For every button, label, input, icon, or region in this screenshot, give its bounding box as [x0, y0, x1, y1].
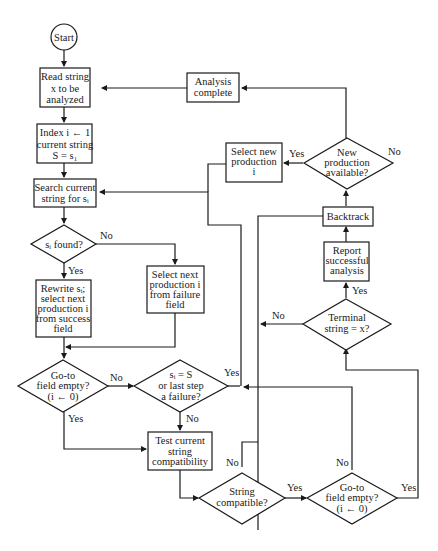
analysis-complete-node: Analysis complete [187, 73, 239, 102]
goto2-no-label: No [336, 457, 349, 468]
svg-text:field empty?: field empty? [326, 492, 379, 503]
svg-text:compatible?: compatible? [216, 497, 268, 508]
si-found-no-label: No [100, 230, 113, 241]
start-node: Start [51, 24, 77, 50]
newprod-yes-label: Yes [289, 148, 304, 159]
select-new-production-node: Select new production i [226, 143, 282, 182]
si-eq-yes-label: Yes [224, 367, 239, 378]
rewrite-node: Rewrite sᵢ; select next production i fro… [36, 280, 91, 337]
si-found-yes-label: Yes [68, 265, 83, 276]
compat-yes-label: Yes [287, 482, 302, 493]
svg-text:string = x?: string = x? [325, 323, 370, 334]
svg-text:i: i [253, 166, 256, 177]
test-compatibility-node: Test current string compatibility [148, 432, 212, 470]
report-success-node: Report successful analysis [324, 242, 369, 281]
svg-text:available?: available? [326, 167, 369, 178]
svg-text:String: String [229, 486, 255, 497]
svg-text:Terminal: Terminal [328, 312, 366, 323]
svg-text:complete: complete [194, 87, 233, 98]
compat-no-label: No [226, 457, 239, 468]
goto1-no-label: No [110, 372, 123, 383]
svg-text:field: field [165, 299, 185, 310]
svg-text:compatibility: compatibility [152, 456, 209, 467]
svg-text:field empty?: field empty? [37, 380, 90, 391]
svg-text:S = s₁: S = s₁ [53, 150, 78, 161]
terminal-yes-label: Yes [352, 285, 367, 296]
svg-text:Read string: Read string [41, 71, 90, 82]
svg-text:Start: Start [54, 32, 74, 43]
search-node: Search current string for sᵢ [34, 179, 96, 207]
svg-text:analyzed: analyzed [46, 94, 84, 105]
si-equals-s-decision: sᵢ = S or last step a failure? [134, 360, 228, 412]
svg-text:Search current: Search current [35, 182, 96, 193]
svg-text:Test current: Test current [155, 435, 205, 446]
svg-text:(i ← 0): (i ← 0) [48, 391, 79, 403]
svg-text:a failure?: a failure? [161, 391, 201, 402]
flowchart: Start Read string x to be analyzed Index… [0, 0, 438, 551]
svg-text:Analysis: Analysis [195, 76, 232, 87]
si-eq-no-label: No [186, 413, 199, 424]
svg-text:analysis: analysis [330, 265, 364, 276]
select-failure-node: Select next production i from failure fi… [147, 266, 204, 313]
newprod-no-label: No [388, 146, 401, 157]
goto-empty-decision-2: Go-to field empty? (i ← 0) [307, 473, 397, 524]
svg-text:x to be: x to be [51, 83, 80, 94]
goto1-yes-label: Yes [68, 413, 83, 424]
goto-empty-decision-1: Go-to field empty? (i ← 0) [18, 360, 108, 412]
svg-text:Index i ← 1: Index i ← 1 [40, 127, 90, 138]
svg-text:or last step: or last step [158, 380, 204, 391]
new-production-decision: New production available? [304, 138, 393, 189]
svg-text:field: field [53, 323, 73, 334]
string-compatible-decision: String compatible? [199, 473, 285, 524]
svg-text:string for sᵢ: string for sᵢ [41, 193, 88, 204]
svg-text:current string: current string [37, 139, 94, 150]
read-string-node: Read string x to be analyzed [40, 68, 90, 107]
svg-text:Backtrack: Backtrack [327, 211, 370, 222]
terminal-no-label: No [272, 310, 285, 321]
si-found-decision: sᵢ found? [31, 225, 96, 263]
index-init-node: Index i ← 1 current string S = s₁ [37, 124, 94, 163]
svg-text:sᵢ found?: sᵢ found? [45, 239, 83, 250]
svg-text:(i ← 0): (i ← 0) [337, 503, 368, 515]
backtrack-node: Backtrack [323, 207, 373, 226]
terminal-decision: Terminal string = x? [303, 299, 391, 350]
svg-text:sᵢ = S: sᵢ = S [170, 369, 193, 380]
goto2-yes-label: Yes [401, 482, 416, 493]
